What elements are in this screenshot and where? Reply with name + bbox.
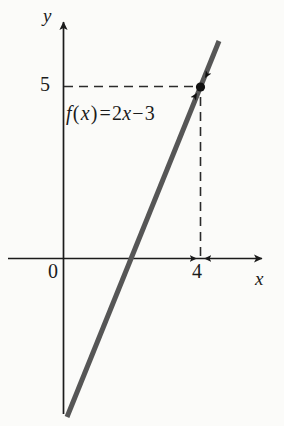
equals-sign: =	[99, 102, 112, 124]
origin-label: 0	[48, 261, 58, 281]
marked-point-4-5	[196, 82, 205, 91]
slope-coefficient: 2	[112, 102, 122, 124]
function-name: f	[66, 102, 72, 124]
plot-canvas	[0, 0, 284, 426]
x-axis-label: x	[255, 269, 263, 288]
constant-term: 3	[145, 102, 155, 124]
function-argument: x	[81, 102, 90, 124]
function-line	[67, 41, 219, 417]
function-paren-open: (	[72, 102, 81, 124]
minus-sign: −	[131, 102, 144, 124]
function-paren-close: )	[90, 102, 99, 124]
y-tick-label-5: 5	[40, 74, 50, 94]
function-graph-figure: y x 5 0 4 f(x)=2x−3	[0, 0, 284, 426]
function-equation-label: f(x)=2x−3	[66, 103, 155, 123]
y-axis-label: y	[43, 6, 51, 25]
variable-term: x	[122, 102, 131, 124]
x-tick-label-4: 4	[192, 261, 202, 281]
